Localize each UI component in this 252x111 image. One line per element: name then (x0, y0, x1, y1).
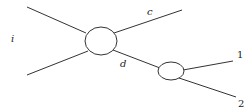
incoming-line-lower (27, 51, 88, 75)
label-2: 2 (238, 98, 244, 109)
outgoing-line-2 (179, 78, 236, 97)
decay-diagram: i c d 1 2 (0, 0, 252, 111)
label-d: d (120, 58, 126, 69)
label-c: c (147, 6, 153, 17)
incoming-line-upper (27, 7, 86, 33)
label-1: 1 (237, 49, 243, 60)
secondary-vertex-blob (158, 62, 184, 80)
primary-vertex-blob (85, 27, 117, 55)
label-i: i (11, 33, 14, 44)
outgoing-line-1 (183, 61, 233, 70)
